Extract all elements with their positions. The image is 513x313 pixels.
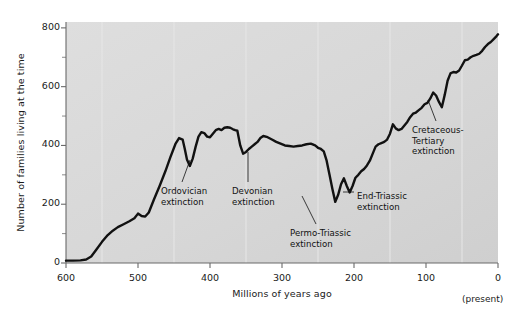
present-note: (present) — [462, 294, 503, 304]
annotation-line: extinction — [290, 239, 351, 250]
annotation-cretaceous-tertiary: Cretaceous-Tertiaryextinction — [412, 125, 464, 157]
annotation-line: extinction — [412, 146, 464, 157]
x-tick-label-0: 0 — [478, 272, 513, 283]
x-tick-label-400: 400 — [190, 272, 230, 283]
y-tick-label-0: 0 — [26, 256, 60, 267]
y-tick-label-600: 600 — [26, 80, 60, 91]
annotation-line: Ordovician — [161, 186, 207, 197]
y-tick-label-200: 200 — [26, 197, 60, 208]
x-tick-label-600: 600 — [46, 272, 86, 283]
x-tick-label-100: 100 — [406, 272, 446, 283]
annotation-line: Devonian — [232, 186, 275, 197]
annotation-line: Permo-Triassic — [290, 228, 351, 239]
extinction-diversity-chart: Number of families living at the time Mi… — [0, 0, 513, 313]
annotation-permo-triassic: Permo-Triassicextinction — [290, 228, 351, 249]
x-tick-label-300: 300 — [262, 272, 302, 283]
x-axis-title: Millions of years ago — [66, 288, 498, 299]
y-tick-label-800: 800 — [26, 21, 60, 32]
y-tick-label-400: 400 — [26, 138, 60, 149]
plot-canvas — [0, 0, 513, 313]
x-tick-label-200: 200 — [334, 272, 374, 283]
annotation-ordovician: Ordovicianextinction — [161, 186, 207, 207]
annotation-end-triassic: End-Triassicextinction — [357, 191, 407, 212]
annotation-line: extinction — [161, 197, 207, 208]
annotation-line: extinction — [357, 202, 407, 213]
annotation-devonian: Devonianextinction — [232, 186, 275, 207]
annotation-line: Tertiary — [412, 136, 464, 147]
x-tick-label-500: 500 — [118, 272, 158, 283]
annotation-line: End-Triassic — [357, 191, 407, 202]
annotation-line: extinction — [232, 197, 275, 208]
annotation-line: Cretaceous- — [412, 125, 464, 136]
